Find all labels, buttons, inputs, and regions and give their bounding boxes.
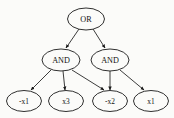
node-l1[interactable]: -x1 <box>7 91 42 112</box>
edge-and1-to-l2 <box>63 71 65 90</box>
node-layer: ORANDAND-x1x3-x2x1 <box>7 8 169 112</box>
edge-and1-to-l3 <box>72 70 104 90</box>
node-label-and1: AND <box>52 56 70 65</box>
figure-canvas: ORANDAND-x1x3-x2x1 <box>0 0 174 118</box>
node-label-l4: x1 <box>147 97 155 106</box>
edge-and1-to-l1 <box>31 70 51 90</box>
node-label-l2: x3 <box>62 97 70 106</box>
node-and2[interactable]: AND <box>91 49 129 71</box>
node-label-or: OR <box>80 15 92 24</box>
node-label-l3: -x2 <box>105 97 115 106</box>
node-label-and2: AND <box>101 56 119 65</box>
node-l2[interactable]: x3 <box>49 91 84 112</box>
edge-or-to-and1 <box>66 29 79 48</box>
edge-or-to-and2 <box>93 29 105 48</box>
edge-and2-to-l4 <box>120 70 144 90</box>
node-and1[interactable]: AND <box>42 49 80 71</box>
node-label-l1: -x1 <box>19 97 29 106</box>
node-l3[interactable]: -x2 <box>93 91 128 112</box>
node-l4[interactable]: x1 <box>134 91 169 112</box>
node-or[interactable]: OR <box>68 8 105 30</box>
circuit-graph: ORANDAND-x1x3-x2x1 <box>0 0 174 118</box>
